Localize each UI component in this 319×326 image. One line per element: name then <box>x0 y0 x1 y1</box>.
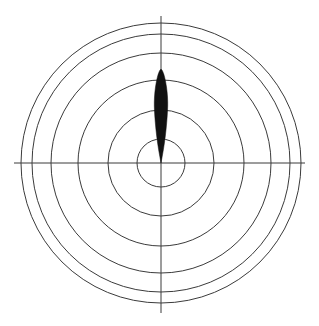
polar-plot-canvas <box>0 0 319 326</box>
polar-plot-figure <box>0 0 319 326</box>
